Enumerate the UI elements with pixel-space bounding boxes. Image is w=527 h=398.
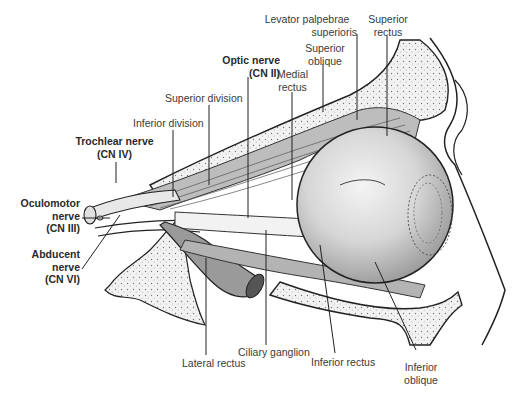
- label-line: Optic nerve: [210, 54, 280, 67]
- label-line: Lateral rectus: [182, 357, 246, 370]
- label-inferior-rectus: Inferior rectus: [311, 356, 375, 369]
- label-line: Superior: [363, 13, 413, 26]
- label-line: (CN IV): [72, 148, 157, 161]
- label-trochlear-nerve: Trochlear nerve (CN IV): [72, 135, 157, 160]
- label-line: oblique: [300, 55, 350, 68]
- label-line: Medial: [270, 68, 315, 81]
- label-line: (CN III): [10, 222, 80, 235]
- label-inferior-division: Inferior division: [133, 117, 204, 130]
- label-line: nerve: [10, 261, 80, 274]
- label-superior-rectus: Superior rectus: [363, 13, 413, 38]
- label-line: Superior: [300, 42, 350, 55]
- label-superior-oblique: Superior oblique: [300, 42, 350, 67]
- orbit-anatomy-diagram: Levator palpebrae superioris Superior re…: [0, 0, 527, 398]
- label-inferior-oblique: Inferior oblique: [396, 361, 446, 386]
- label-line: Inferior: [396, 361, 446, 374]
- label-line: Superior division: [165, 92, 243, 105]
- label-line: Inferior division: [133, 117, 204, 130]
- label-line: superioris: [257, 26, 357, 39]
- label-line: oblique: [396, 374, 446, 387]
- label-ciliary-ganglion: Ciliary ganglion: [238, 346, 310, 359]
- label-levator-palpebrae-superioris: Levator palpebrae superioris: [257, 13, 357, 38]
- label-line: rectus: [363, 26, 413, 39]
- label-line: Oculomotor: [10, 197, 80, 210]
- label-line: (CN VI): [10, 273, 80, 286]
- label-medial-rectus: Medial rectus: [270, 68, 315, 93]
- label-line: Abducent: [10, 248, 80, 261]
- label-abducent-nerve: Abducent nerve (CN VI): [10, 248, 80, 286]
- label-oculomotor-nerve: Oculomotor nerve (CN III): [10, 197, 80, 235]
- label-line: Levator palpebrae: [257, 13, 357, 26]
- label-line: Ciliary ganglion: [238, 346, 310, 359]
- label-lateral-rectus: Lateral rectus: [182, 357, 246, 370]
- label-line: Inferior rectus: [311, 356, 375, 369]
- label-line: Trochlear nerve: [72, 135, 157, 148]
- label-superior-division: Superior division: [165, 92, 243, 105]
- label-line: rectus: [270, 81, 315, 94]
- label-line: nerve: [10, 210, 80, 223]
